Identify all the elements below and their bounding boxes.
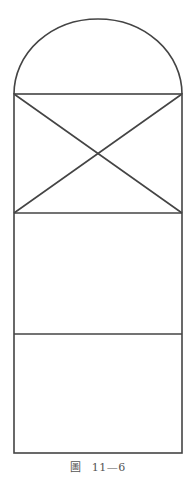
caption-prefix: 圖 <box>70 461 82 474</box>
window-diagram <box>0 0 196 480</box>
caption-number: 11—6 <box>92 461 126 474</box>
arch-top <box>14 19 182 94</box>
frame-outline <box>14 94 182 453</box>
figure-caption: 圖11—6 <box>0 458 196 474</box>
